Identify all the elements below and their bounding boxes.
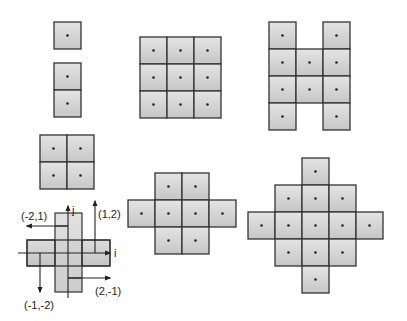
cell-center-dot: [314, 224, 317, 227]
cell-center-dot: [314, 197, 317, 200]
cell-center-dot: [335, 88, 338, 91]
cell-center-dot: [314, 170, 317, 173]
cell-center-dot: [66, 75, 69, 78]
cell-center-dot: [314, 251, 317, 254]
stencil-single: [54, 22, 81, 49]
cell-center-dot: [152, 103, 155, 106]
vector-label-1-2: (1,2): [98, 208, 121, 220]
diagram-canvas: i j (-2,1) (1,2) (-1,-2) (2,-1): [0, 0, 407, 321]
stencil-diamond: [248, 158, 383, 293]
cell-center-dot: [79, 147, 82, 150]
cell-center-dot: [206, 49, 209, 52]
cell-center-dot: [368, 224, 371, 227]
cell-center-dot: [281, 61, 284, 64]
stencil-plus-octagon: [128, 173, 236, 254]
cell-center-dot: [335, 34, 338, 37]
cell-center-dot: [140, 212, 143, 215]
lattice-diagram: i j (-2,1) (1,2) (-1,-2) (2,-1): [18, 201, 121, 311]
cell-center-dot: [167, 239, 170, 242]
cell-center-dot: [194, 185, 197, 188]
cell-center-dot: [66, 102, 69, 105]
stencil-vertical-pair: [54, 63, 81, 117]
cell-center-dot: [287, 197, 290, 200]
cell-center-dot: [314, 278, 317, 281]
cell-center-dot: [194, 212, 197, 215]
cell-center-dot: [308, 61, 311, 64]
vector-label-2-minus1: (2,-1): [95, 285, 121, 297]
j-axis-label: j: [71, 204, 74, 216]
cell-center-dot: [287, 251, 290, 254]
cell-center-dot: [194, 239, 197, 242]
stencil-h-shape: [269, 22, 350, 130]
cell-center-dot: [341, 197, 344, 200]
cell-center-dot: [281, 115, 284, 118]
cell-center-dot: [281, 88, 284, 91]
cell-center-dot: [335, 115, 338, 118]
cell-center-dot: [341, 251, 344, 254]
stencil-square-3x3: [140, 37, 221, 118]
cell-center-dot: [206, 103, 209, 106]
cell-center-dot: [79, 174, 82, 177]
cell-center-dot: [341, 224, 344, 227]
cell-center-dot: [52, 147, 55, 150]
vector-label-minus2-1: (-2,1): [21, 210, 47, 222]
cell-center-dot: [308, 88, 311, 91]
cell-center-dot: [167, 212, 170, 215]
i-axis-label: i: [114, 247, 116, 259]
cell-center-dot: [335, 61, 338, 64]
cell-center-dot: [179, 76, 182, 79]
cell-center-dot: [221, 212, 224, 215]
cell-center-dot: [287, 224, 290, 227]
cell-center-dot: [206, 76, 209, 79]
cell-center-dot: [52, 174, 55, 177]
stencil-square-2x2: [40, 135, 94, 189]
cell-center-dot: [66, 34, 69, 37]
cell-center-dot: [179, 103, 182, 106]
vector-label-minus1-minus2: (-1,-2): [24, 299, 54, 311]
cell-center-dot: [152, 49, 155, 52]
cell-center-dot: [179, 49, 182, 52]
cell-center-dot: [152, 76, 155, 79]
cell-center-dot: [260, 224, 263, 227]
cell-center-dot: [167, 185, 170, 188]
cell-center-dot: [281, 34, 284, 37]
